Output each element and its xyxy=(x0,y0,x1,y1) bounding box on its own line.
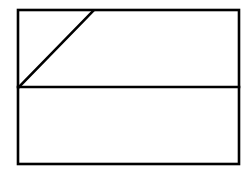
line-diagram xyxy=(0,0,251,178)
diagonal-line xyxy=(19,11,93,87)
diagram-canvas xyxy=(0,0,251,178)
